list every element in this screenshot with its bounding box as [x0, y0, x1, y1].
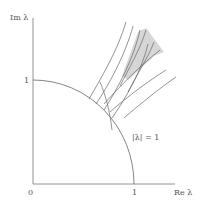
x-tick-label: 1 — [132, 189, 137, 197]
origin-label: 0 — [28, 189, 33, 197]
unit-circle-arc — [33, 80, 134, 184]
curve-family — [89, 22, 176, 130]
diagram-canvas — [0, 0, 204, 205]
shaded-region — [122, 28, 164, 80]
y-tick-label: 1 — [24, 77, 29, 85]
x-axis-label: Re λ — [174, 189, 192, 197]
y-axis-label: Im λ — [10, 14, 28, 22]
circle-label: |λ| = 1 — [132, 134, 159, 142]
complex-plane-diagram: Im λ 1 0 1 Re λ |λ| = 1 — [0, 0, 204, 205]
